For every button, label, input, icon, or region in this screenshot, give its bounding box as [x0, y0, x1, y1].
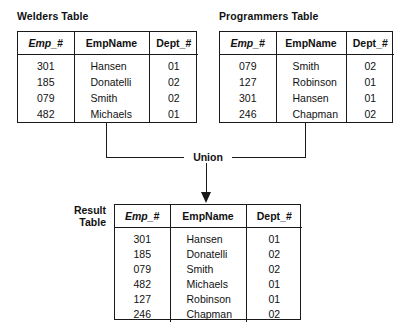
cell-dept: 01: [246, 228, 302, 248]
result-table: Emp_# EmpName Dept_# 301 Hansen 01 185 D…: [114, 204, 301, 320]
cell-name: Hansen: [276, 91, 346, 107]
cell-emp: 301: [18, 55, 74, 75]
cell-dept: 02: [246, 307, 302, 322]
cell-dept: 01: [149, 55, 198, 75]
table-row: 185 Donatelli 02: [18, 75, 198, 91]
column-header-dept: Dept_#: [246, 205, 302, 228]
table-row: 127 Robinson 01: [115, 292, 302, 307]
cell-name: Robinson: [170, 292, 246, 307]
programmers-table-title: Programmers Table: [219, 10, 319, 22]
programmers-table-body: 079 Smith 02 127 Robinson 01 301 Hansen …: [220, 55, 394, 123]
column-header-emp: Emp_#: [115, 205, 170, 228]
cell-dept: 02: [149, 75, 198, 91]
table-row: 185 Donatelli 02: [115, 247, 302, 262]
column-header-dept: Dept_#: [346, 32, 394, 55]
cell-name: Donatelli: [170, 247, 246, 262]
table-row: 127 Robinson 01: [220, 75, 394, 91]
cell-dept: 01: [149, 106, 198, 122]
cell-dept: 02: [346, 106, 394, 122]
column-header-name: EmpName: [74, 32, 149, 55]
cell-name: Robinson: [276, 75, 346, 91]
table-row: 079 Smith 02: [18, 91, 198, 107]
column-header-emp: Emp_#: [18, 32, 74, 55]
cell-dept: 02: [246, 262, 302, 277]
cell-emp: 079: [115, 262, 170, 277]
table-row: 301 Hansen 01: [220, 91, 394, 107]
table-row: 246 Chapman 02: [220, 106, 394, 122]
cell-emp: 185: [115, 247, 170, 262]
cell-name: Hansen: [170, 228, 246, 248]
result-table-grid: Emp_# EmpName Dept_# 301 Hansen 01 185 D…: [115, 205, 302, 322]
cell-emp: 079: [220, 55, 276, 75]
cell-name: Chapman: [276, 106, 346, 122]
cell-emp: 185: [18, 75, 74, 91]
cell-emp: 246: [115, 307, 170, 322]
welders-table-header: Emp_# EmpName Dept_#: [18, 32, 198, 55]
result-table-header: Emp_# EmpName Dept_#: [115, 205, 302, 228]
table-header-row: Emp_# EmpName Dept_#: [220, 32, 394, 55]
cell-name: Smith: [74, 91, 149, 107]
cell-name: Hansen: [74, 55, 149, 75]
programmers-table-grid: Emp_# EmpName Dept_# 079 Smith 02 127 Ro…: [220, 32, 394, 122]
cell-dept: 02: [246, 247, 302, 262]
cell-name: Donatelli: [74, 75, 149, 91]
cell-emp: 246: [220, 106, 276, 122]
table-row: 301 Hansen 01: [18, 55, 198, 75]
result-table-title-line2: Table: [58, 216, 106, 228]
cell-dept: 01: [346, 75, 394, 91]
cell-dept: 02: [149, 91, 198, 107]
cell-name: Michaels: [74, 106, 149, 122]
column-header-name: EmpName: [276, 32, 346, 55]
union-operation-label: Union: [184, 151, 232, 163]
cell-name: Smith: [170, 262, 246, 277]
arrow-head-icon: [201, 192, 211, 203]
welders-table-grid: Emp_# EmpName Dept_# 301 Hansen 01 185 D…: [18, 32, 198, 122]
column-header-name: EmpName: [170, 205, 246, 228]
diagram-canvas: Welders Table Emp_# EmpName Dept_# 301 H…: [0, 0, 407, 330]
column-header-dept: Dept_#: [149, 32, 198, 55]
programmers-table-header: Emp_# EmpName Dept_#: [220, 32, 394, 55]
cell-dept: 01: [346, 91, 394, 107]
table-row: 079 Smith 02: [115, 262, 302, 277]
welders-table: Emp_# EmpName Dept_# 301 Hansen 01 185 D…: [17, 31, 197, 123]
cell-dept: 01: [246, 292, 302, 307]
result-table-title: Result Table: [58, 204, 106, 228]
table-header-row: Emp_# EmpName Dept_#: [18, 32, 198, 55]
connector-line-programmers: [305, 123, 306, 158]
table-header-row: Emp_# EmpName Dept_#: [115, 205, 302, 228]
column-header-emp: Emp_#: [220, 32, 276, 55]
table-row: 079 Smith 02: [220, 55, 394, 75]
table-row: 301 Hansen 01: [115, 228, 302, 248]
welders-table-body: 301 Hansen 01 185 Donatelli 02 079 Smith…: [18, 55, 198, 123]
cell-name: Chapman: [170, 307, 246, 322]
cell-name: Smith: [276, 55, 346, 75]
cell-emp: 079: [18, 91, 74, 107]
result-table-title-line1: Result: [58, 204, 106, 216]
cell-emp: 482: [18, 106, 74, 122]
cell-emp: 127: [220, 75, 276, 91]
connector-bar-right: [231, 157, 306, 158]
connector-bar-left: [106, 157, 184, 158]
cell-name: Michaels: [170, 277, 246, 292]
table-row: 482 Michaels 01: [115, 277, 302, 292]
cell-dept: 01: [246, 277, 302, 292]
cell-emp: 127: [115, 292, 170, 307]
programmers-table: Emp_# EmpName Dept_# 079 Smith 02 127 Ro…: [219, 31, 393, 123]
connector-line-welders: [106, 123, 107, 158]
cell-dept: 02: [346, 55, 394, 75]
cell-emp: 301: [220, 91, 276, 107]
table-row: 482 Michaels 01: [18, 106, 198, 122]
cell-emp: 482: [115, 277, 170, 292]
table-row: 246 Chapman 02: [115, 307, 302, 322]
result-table-body: 301 Hansen 01 185 Donatelli 02 079 Smith…: [115, 228, 302, 323]
cell-emp: 301: [115, 228, 170, 248]
welders-table-title: Welders Table: [17, 10, 89, 22]
